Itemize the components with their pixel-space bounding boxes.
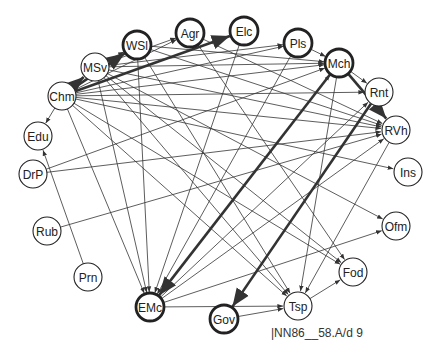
network-diagram: ChmMSvWSlAgrElcPlsMchRntRVhInsOfmFodTspG… xyxy=(0,0,436,352)
node-ofm: Ofm xyxy=(382,212,410,240)
node-label: Ofm xyxy=(385,220,408,234)
node-label: RVh xyxy=(384,124,407,138)
node-rnt: Rnt xyxy=(365,78,393,106)
node-label: Agr xyxy=(181,27,200,41)
node-prn: Prn xyxy=(74,263,102,291)
edge-chm-edu xyxy=(46,108,55,123)
node-edu: Edu xyxy=(24,122,52,150)
node-label: Edu xyxy=(27,130,48,144)
node-label: DrP xyxy=(23,168,44,182)
node-label: Gov xyxy=(213,313,235,327)
node-label: Prn xyxy=(79,271,98,285)
figure-caption: |NN86__58.A/d 9 xyxy=(271,326,363,340)
edge-elc-emc xyxy=(155,44,240,293)
node-label: Rnt xyxy=(370,86,389,100)
edge-drp-rvh xyxy=(47,132,381,173)
node-label: Fod xyxy=(343,266,364,280)
edge-pls-mch xyxy=(311,49,326,56)
node-label: MSv xyxy=(83,61,107,75)
node-label: Pls xyxy=(290,37,307,51)
edge-msv-emc xyxy=(98,81,147,293)
edge-chm-ins xyxy=(76,99,394,169)
node-rvh: RVh xyxy=(382,116,410,144)
edge-rub-rvh xyxy=(60,134,381,227)
node-agr: Agr xyxy=(176,19,204,47)
edge-msv-mch xyxy=(109,63,324,67)
node-rub: Rub xyxy=(33,217,61,245)
edge-tsp-fod xyxy=(310,280,340,299)
edge-prn-edu xyxy=(43,150,83,264)
node-label: Mch xyxy=(328,57,351,71)
node-label: Elc xyxy=(236,25,253,39)
edge-chm-mch xyxy=(76,65,324,95)
edge-emc-mch xyxy=(159,75,330,296)
node-label: EMc xyxy=(138,301,162,315)
edge-emc-rnt xyxy=(160,102,368,297)
edge-pls-emc xyxy=(157,55,291,294)
edge-mch-rnt xyxy=(350,71,367,83)
node-label: Tsp xyxy=(289,300,308,314)
node-label: Rub xyxy=(36,225,58,239)
edge-msv-rvh xyxy=(109,70,382,127)
node-pls: Pls xyxy=(284,29,312,57)
edge-chm-rvh xyxy=(76,97,381,128)
edge-wsl-emc xyxy=(138,59,150,292)
edge-chm-emc xyxy=(67,109,144,293)
node-label: Ins xyxy=(400,166,416,180)
node-fod: Fod xyxy=(339,258,367,286)
node-emc: EMc xyxy=(136,293,164,321)
edge-chm-fod xyxy=(74,103,340,264)
graph-svg: ChmMSvWSlAgrElcPlsMchRntRVhInsOfmFodTspG… xyxy=(0,0,436,352)
edge-gov-tsp xyxy=(238,309,283,317)
node-label: Chm xyxy=(49,90,74,104)
node-wsl: WSl xyxy=(123,31,151,59)
node-ins: Ins xyxy=(394,158,422,186)
node-gov: Gov xyxy=(210,305,238,333)
node-chm: Chm xyxy=(48,82,76,110)
node-label: WSl xyxy=(126,39,148,53)
node-msv: MSv xyxy=(81,53,109,81)
node-tsp: Tsp xyxy=(284,292,312,320)
node-elc: Elc xyxy=(230,17,258,45)
node-mch: Mch xyxy=(325,49,353,77)
node-layer: ChmMSvWSlAgrElcPlsMchRntRVhInsOfmFodTspG… xyxy=(19,17,422,333)
node-drp: DrP xyxy=(19,160,47,188)
